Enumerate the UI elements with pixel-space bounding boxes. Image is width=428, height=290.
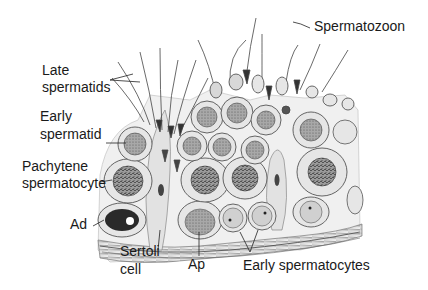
ap-spermatogonium	[178, 201, 222, 239]
label-pachytene-line2: spermatocyte	[22, 175, 106, 192]
early-spermatocyte	[248, 202, 276, 230]
seminiferous-epithelium-illustration	[0, 0, 428, 290]
early-spermatocyte	[219, 204, 247, 232]
label-sertoli-line2: cell	[120, 261, 141, 278]
label-ad: Ad	[70, 216, 87, 233]
label-early-spermatocytes: Early spermatocytes	[243, 257, 370, 274]
label-ap: Ap	[188, 256, 205, 273]
late-spermatids-leader-1	[110, 74, 133, 80]
label-early-spermatid-line1: Early	[40, 108, 72, 125]
spermatozoon-leader	[293, 22, 310, 28]
label-late-spermatids-line1: Late	[42, 62, 69, 79]
label-early-spermatid-line2: spermatid	[40, 126, 101, 143]
label-sertoli-line1: Sertoli	[120, 243, 160, 260]
early-spermatocyte	[293, 197, 329, 227]
label-spermatozoon: Spermatozoon	[314, 18, 405, 35]
ad-spermatogonium	[98, 203, 146, 237]
label-late-spermatids-line2: spermatids	[42, 79, 110, 96]
label-pachytene-line1: Pachytene	[22, 158, 88, 175]
